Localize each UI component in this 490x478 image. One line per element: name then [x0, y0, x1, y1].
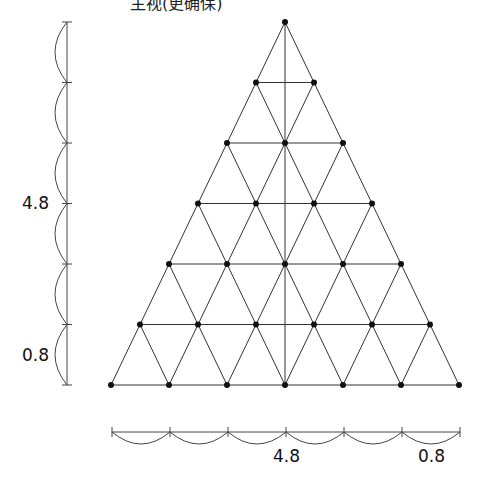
bottom-dimension-line	[112, 427, 460, 444]
bottom-right-label: 0.8	[418, 446, 445, 466]
triangular-grid-diagram	[0, 0, 490, 478]
bottom-mid-label: 4.8	[273, 446, 300, 466]
left-upper-label: 4.8	[22, 193, 49, 213]
left-lower-label: 0.8	[22, 345, 49, 365]
left-dimension-line	[55, 22, 72, 385]
grid-lines	[111, 22, 459, 385]
